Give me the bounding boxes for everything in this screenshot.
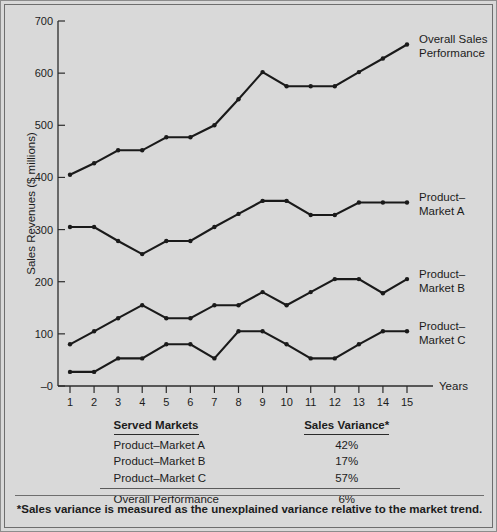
data-point	[381, 329, 385, 333]
data-point	[68, 370, 72, 374]
data-point	[284, 342, 288, 346]
data-point	[381, 200, 385, 204]
cell-market-name: Product–Market B	[100, 453, 294, 470]
x-axis-tick-label: 9	[260, 396, 266, 408]
data-point	[68, 173, 72, 177]
x-axis-tick-label: 1	[67, 396, 73, 408]
header-served-markets: Served Markets	[100, 417, 294, 437]
y-axis-title: Sales Revenues ($ millions)	[25, 132, 37, 275]
cell-market-variance: 42%	[294, 437, 400, 454]
x-axis-tick-label: 7	[211, 396, 217, 408]
data-point	[357, 342, 361, 346]
data-point	[309, 84, 313, 88]
x-axis-tick-label: 6	[187, 396, 193, 408]
x-axis-title: Years	[439, 380, 468, 392]
x-axis-tick-label: 15	[401, 396, 413, 408]
x-axis-tick-label: 11	[305, 396, 316, 408]
data-point	[405, 42, 409, 46]
x-axis-tick-label: 10	[281, 396, 293, 408]
y-axis-tick-label: 300	[35, 224, 53, 236]
data-point	[212, 225, 216, 229]
y-axis-tick-label: 700	[35, 15, 53, 27]
data-point	[92, 329, 96, 333]
data-point	[212, 123, 216, 127]
data-point	[405, 277, 409, 281]
data-point	[68, 342, 72, 346]
x-axis-tick-label: 8	[235, 396, 241, 408]
series-line-3	[70, 279, 407, 344]
data-point	[212, 303, 216, 307]
series-line-2	[70, 201, 407, 254]
y-axis-tick-label: 100	[35, 328, 53, 340]
table-header-row: Served Markets Sales Variance*	[100, 417, 400, 437]
series-line-1	[70, 45, 407, 175]
x-axis-tick-label: 12	[329, 396, 341, 408]
data-point	[333, 277, 337, 281]
data-point	[309, 213, 313, 217]
cell-market-variance: 17%	[294, 453, 400, 470]
footnote-divider	[15, 495, 484, 496]
data-point	[140, 356, 144, 360]
data-point	[92, 161, 96, 165]
data-point	[164, 239, 168, 243]
data-point	[309, 290, 313, 294]
data-point	[188, 316, 192, 320]
table-row: Product–Market C 57%	[100, 470, 400, 488]
y-axis-tick-label: 400	[35, 171, 53, 183]
series-label-4-line2: Market C	[419, 334, 466, 346]
data-point	[381, 56, 385, 60]
data-point	[284, 84, 288, 88]
x-axis-tick-label: 2	[91, 396, 97, 408]
data-point	[405, 329, 409, 333]
data-point	[284, 199, 288, 203]
table-row: Product–Market B 17%	[100, 453, 400, 470]
x-axis-tick-label: 3	[115, 396, 121, 408]
series-line-4	[70, 331, 407, 372]
data-point	[116, 316, 120, 320]
data-point	[357, 200, 361, 204]
data-point	[236, 97, 240, 101]
y-axis-tick-label: 200	[35, 276, 53, 288]
data-point	[140, 252, 144, 256]
data-point	[92, 370, 96, 374]
data-point	[236, 303, 240, 307]
header-sales-variance: Sales Variance*	[294, 417, 400, 437]
data-point	[92, 225, 96, 229]
data-point	[333, 213, 337, 217]
data-point	[164, 342, 168, 346]
data-point	[236, 212, 240, 216]
x-axis-tick-label: 14	[377, 396, 389, 408]
variance-table: Served Markets Sales Variance* Product–M…	[100, 417, 400, 508]
data-point	[188, 342, 192, 346]
data-point	[140, 148, 144, 152]
chart-figure: –0100200300400500600700Sales Revenues ($…	[0, 0, 497, 532]
data-point	[164, 135, 168, 139]
data-point	[357, 277, 361, 281]
line-chart-svg: –0100200300400500600700Sales Revenues ($…	[1, 1, 497, 421]
plot-area: –0100200300400500600700Sales Revenues ($…	[1, 1, 497, 421]
series-label-1: Overall Sales	[419, 33, 488, 45]
series-label-3: Product–	[419, 268, 466, 280]
data-point	[260, 329, 264, 333]
series-label-2-line2: Market A	[419, 205, 465, 217]
footnote-text: *Sales variance is measured as the unexp…	[1, 503, 497, 515]
data-point	[188, 135, 192, 139]
data-point	[116, 239, 120, 243]
y-axis-tick-label: 600	[35, 67, 53, 79]
cell-market-name: Product–Market A	[100, 437, 294, 454]
series-label-2: Product–	[419, 191, 466, 203]
data-point	[116, 148, 120, 152]
data-point	[405, 200, 409, 204]
series-label-3-line2: Market B	[419, 282, 465, 294]
data-point	[212, 356, 216, 360]
series-label-1-line2: Performance	[419, 47, 485, 59]
y-axis-tick-label: –0	[41, 380, 53, 392]
x-axis-tick-label: 4	[139, 396, 145, 408]
data-point	[381, 291, 385, 295]
data-point	[284, 303, 288, 307]
series-label-4: Product–	[419, 320, 466, 332]
table-row: Product–Market A 42%	[100, 437, 400, 454]
data-point	[309, 356, 313, 360]
data-point	[164, 316, 168, 320]
cell-market-variance: 57%	[294, 470, 400, 488]
